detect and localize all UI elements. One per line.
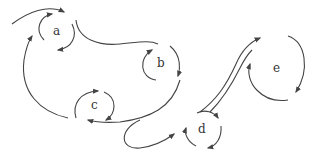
vortex-c: c	[75, 91, 114, 120]
node-label-a: a	[53, 24, 60, 38]
vortex-a: a	[39, 14, 74, 50]
stream-d-to-e	[200, 38, 260, 112]
vortex-e: e	[249, 36, 305, 100]
stream-top-left	[12, 9, 64, 24]
node-label-b: b	[157, 56, 165, 70]
stream-b-to-c	[88, 80, 180, 122]
stream-left-loop	[23, 36, 68, 118]
vortex-d: d	[185, 111, 221, 148]
stream-d-to-e-inner	[210, 50, 252, 112]
flow-diagram: a b c d e	[0, 0, 319, 156]
stream-a-to-b	[76, 20, 158, 44]
node-label-d: d	[198, 122, 206, 136]
node-label-e: e	[273, 61, 280, 75]
vortex-b: b	[143, 46, 180, 80]
stream-c-to-d	[124, 120, 174, 148]
node-label-c: c	[91, 98, 98, 112]
